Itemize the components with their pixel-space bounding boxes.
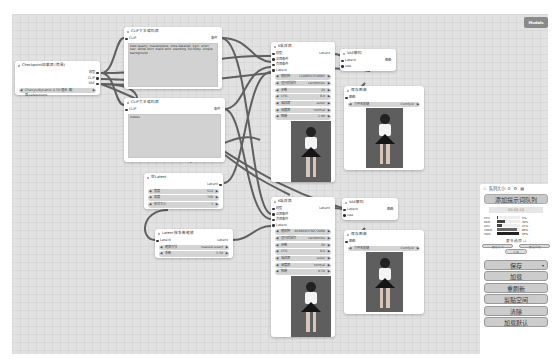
node-vae-decode-2[interactable]: VAE解码 Latent图像 vae [342,198,398,220]
queue-prompt-button[interactable]: 添加提示词队列 [484,194,548,204]
view-history-button[interactable]: 查看历史 [519,244,550,249]
input-dot-icon[interactable] [156,240,159,243]
negative-prompt-textarea[interactable]: lowres [128,114,221,158]
node-title: Checkpoint加载器(简易) [15,61,100,70]
input-vae[interactable]: vae [342,213,398,219]
execution-timer: 00:00:10 [489,207,543,213]
node-vae-decode-1[interactable]: VAE解码 Latent图像 vae [340,49,396,71]
input-dot-icon[interactable] [272,64,275,67]
preview-image [291,121,331,182]
positive-prompt-textarea[interactable]: best quality, masterpiece, ultra-detaile… [128,43,218,87]
seed-widget[interactable]: 随机种868869379272080 [275,229,331,235]
input-dot-icon[interactable] [125,38,128,41]
input-latent[interactable]: Latent [271,68,335,74]
load-button[interactable]: 加载 [484,271,548,281]
input-vae[interactable]: vae [340,64,396,70]
saved-image [366,252,403,312]
clipboard-icon[interactable]: ▤ [520,184,524,193]
node-title: VAE解码 [340,49,396,58]
stat-hdd: HDD95% [480,232,552,236]
input-latent[interactable]: LatentLatent [155,238,233,244]
ckpt-name-combo[interactable]: Chenyu/dynamic 2.5D 混合-翻版.safetensors [19,88,96,94]
node-empty-latent[interactable]: 空Latent Latent 宽度512 高度768 批次大小1 [144,173,223,209]
input-latent[interactable]: Latent [271,223,335,229]
input-images[interactable]: 图像 [344,95,424,101]
node-latent-upscale-by[interactable]: Latent按系数缩放 LatentLatent 缩放方法nearest-exa… [155,229,233,258]
filename-prefix-widget[interactable]: 文件名前缀ComfyUI [348,246,420,252]
node-clip-text-encode-negative[interactable]: CLIP文本编码器 CLIP条件 lowres [124,98,225,162]
input-dot-icon[interactable] [345,241,348,244]
queue-panel: ⠿ 队列大小: 0 ⚙ ▤ 添加提示词队列 00:00:10 CPU5% RAM… [480,184,552,356]
models-button[interactable]: Models [524,17,548,28]
output-latent[interactable]: Latent [144,182,223,188]
input-dot-icon[interactable] [343,209,346,212]
denoise-widget[interactable]: 降噪1.00 [275,114,331,120]
output-dot-icon[interactable] [96,83,99,86]
save-button[interactable]: 保存▾ [484,260,548,270]
share-button[interactable]: 分享 [505,249,527,254]
node-title: VAE解码 [342,198,398,207]
input-dot-icon[interactable] [272,219,275,222]
filename-prefix-widget[interactable]: 文件名前缀ComfyUI [348,102,420,108]
input-dot-icon[interactable] [341,65,344,68]
dropdown-arrow-icon[interactable]: ▾ [542,261,544,271]
clear-button[interactable]: 清除 [484,306,548,316]
input-dot-icon[interactable] [272,208,275,211]
character-figure [375,252,395,308]
character-figure [301,276,321,332]
sampler-widget[interactable]: 采样器euler [275,256,331,262]
output-dot-icon[interactable] [219,184,222,187]
denoise-widget[interactable]: 降噪0.50 [275,269,331,275]
sampler-widget[interactable]: 采样器euler [275,101,331,107]
settings-gear-icon[interactable]: ⚙ [513,184,517,193]
steps-widget[interactable]: 步数20 [275,243,331,249]
input-dot-icon[interactable] [272,58,275,61]
input-clip[interactable]: CLIP条件 [124,107,225,113]
saved-image [366,108,403,168]
scheduler-widget[interactable]: 调度器normal [275,108,331,114]
cfg-widget[interactable]: CFG8.0 [275,94,331,100]
input-clip[interactable]: CLIP条件 [124,36,222,42]
drag-handle-icon[interactable]: ⠿ [483,184,486,193]
clipspace-button[interactable]: 剪贴空间 [484,294,548,304]
queue-size-label: 队列大小: 0 [489,184,510,193]
node-title: 保存图像 [344,86,424,95]
scale-by-widget[interactable]: 系数1.50 [159,251,229,257]
control-after-generate-widget[interactable]: 运行后操作randomize [275,236,331,242]
output-dot-icon[interactable] [96,72,99,75]
batch-size-widget[interactable]: 批次大小1 [148,202,219,208]
input-dot-icon[interactable] [272,224,275,227]
preview-image [291,276,331,337]
control-after-generate-widget[interactable]: 运行后操作randomize [275,81,331,87]
input-dot-icon[interactable] [341,60,344,63]
node-ksampler-2[interactable]: K采样器 模型Latent 正面条件 负面条件 Latent 随机种868869… [271,197,335,337]
cfg-widget[interactable]: CFG8.0 [275,249,331,255]
node-checkpoint-loader[interactable]: Checkpoint加载器(简易) 模型 CLIP VAE Chenyu/dyn… [15,61,100,95]
upscale-method-widget[interactable]: 缩放方法nearest-exact [159,245,229,251]
view-queue-button[interactable]: 查看队列 [482,244,513,249]
node-ksampler-1[interactable]: K采样器 模型Latent 正面条件 负面条件 Latent 随机种110885… [271,42,335,182]
input-dot-icon[interactable] [343,214,346,217]
extra-options-checkbox[interactable]: ☐ [523,239,526,243]
steps-widget[interactable]: 步数20 [275,88,331,94]
seed-widget[interactable]: 随机种1108856358885 [275,74,331,80]
input-images[interactable]: 图像 [344,239,424,245]
node-save-image-2[interactable]: 保存图像 图像 文件名前缀ComfyUI [344,230,424,314]
character-figure [375,108,395,164]
height-widget[interactable]: 高度768 [148,195,219,201]
node-clip-text-encode-positive[interactable]: CLIP文本编码器 CLIP条件 best quality, masterpie… [124,27,222,89]
load-default-button[interactable]: 加载默认 [484,317,548,327]
input-dot-icon[interactable] [345,97,348,100]
input-dot-icon[interactable] [272,69,275,72]
output-dot-icon[interactable] [96,77,99,80]
width-widget[interactable]: 宽度512 [148,189,219,195]
node-title: CLIP文本编码器 [124,27,222,36]
output-vae[interactable]: VAE [15,81,100,87]
input-dot-icon[interactable] [125,109,128,112]
refresh-button[interactable]: 重刷新 [484,283,548,293]
input-dot-icon[interactable] [272,213,275,216]
node-save-image-1[interactable]: 保存图像 图像 文件名前缀ComfyUI [344,86,424,170]
input-dot-icon[interactable] [272,53,275,56]
panel-header: ⠿ 队列大小: 0 ⚙ ▤ [480,184,552,193]
scheduler-widget[interactable]: 调度器normal [275,263,331,269]
